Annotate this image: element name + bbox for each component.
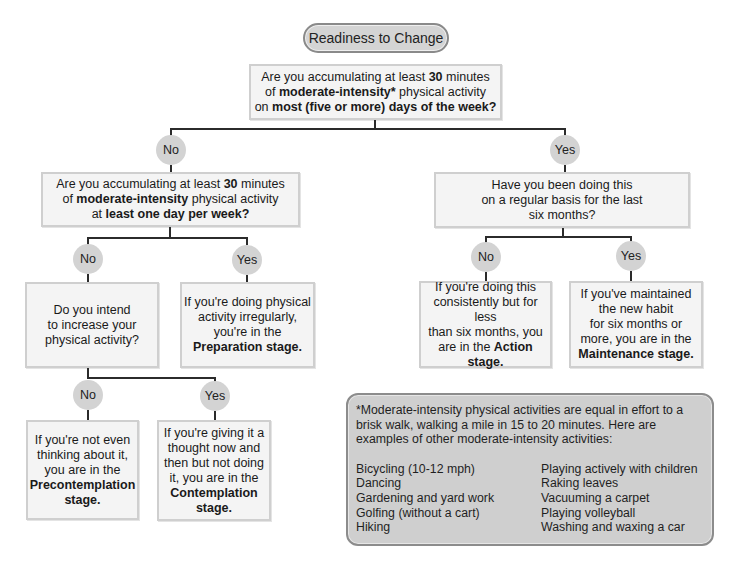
q2-text: of xyxy=(62,192,76,206)
preparation-line: you're in the xyxy=(184,325,311,340)
connector xyxy=(87,377,216,379)
contemplation-line: then but not doing xyxy=(164,456,264,471)
answer-label: No xyxy=(80,388,96,402)
precontemplation-line: you are in the xyxy=(30,463,136,478)
q2-text: Are you accumulating at least xyxy=(56,177,223,191)
answer-yes-circle: Yes xyxy=(232,245,262,275)
preparation-line: activity irregularly, xyxy=(184,310,311,325)
title-text: Readiness to Change xyxy=(309,30,444,46)
action-stage-box: If you're doing this consistently but fo… xyxy=(419,281,552,368)
maintenance-stage-label: Maintenance stage. xyxy=(578,347,693,361)
action-line: than six months, you xyxy=(421,325,550,340)
q3-line: physical activity? xyxy=(45,333,139,348)
answer-yes-circle: Yes xyxy=(550,135,580,165)
q1-text: minutes xyxy=(443,70,490,84)
answer-no-circle: No xyxy=(471,242,501,272)
contemplation-line: thought now and xyxy=(164,441,264,456)
activity-item: Raking leaves xyxy=(541,476,704,491)
q3-line: Do you intend xyxy=(45,303,139,318)
precontemplation-stage-label: stage. xyxy=(64,493,100,507)
preparation-line: If you're doing physical xyxy=(184,295,311,310)
action-line: If you're doing this xyxy=(421,280,550,295)
precontemplation-line: thinking about it, xyxy=(30,448,136,463)
activity-item: Gardening and yard work xyxy=(356,491,541,506)
preparation-stage-label: Preparation stage. xyxy=(193,340,302,354)
q2-bold: least one day per week? xyxy=(106,207,250,221)
q2-text: physical activity xyxy=(188,192,278,206)
question-1-box: Are you accumulating at least 30 minutes… xyxy=(249,64,502,120)
action-line: consistently but for less xyxy=(421,295,550,325)
contemplation-stage-box: If you're giving it a thought now and th… xyxy=(157,420,271,521)
contemplation-line: If you're giving it a xyxy=(164,426,264,441)
activities-column-2: Playing actively with children Raking le… xyxy=(541,462,704,536)
q2-text: at xyxy=(92,207,106,221)
connector xyxy=(170,128,566,130)
q2-bold: 30 xyxy=(224,177,238,191)
title-pill: Readiness to Change xyxy=(303,23,449,53)
answer-no-circle: No xyxy=(73,380,103,410)
answer-label: No xyxy=(478,250,494,264)
question-2-right-box: Have you been doing this on a regular ba… xyxy=(434,172,690,228)
contemplation-line: it, you are in the xyxy=(164,471,264,486)
q2-bold: moderate-intensity xyxy=(76,192,188,206)
answer-no-circle: No xyxy=(156,135,186,165)
answer-label: Yes xyxy=(555,143,575,157)
connector xyxy=(630,271,632,281)
connector xyxy=(485,236,632,238)
question-3-box: Do you intend to increase your physical … xyxy=(25,282,159,368)
q1-bold: most (five or more) days of the week? xyxy=(272,100,496,114)
precontemplation-line: If you're not even xyxy=(30,433,136,448)
note-intro: *Moderate-intensity physical activities … xyxy=(356,403,704,447)
q2-text: minutes xyxy=(238,177,285,191)
q1-bold: moderate-intensity* xyxy=(279,85,396,99)
contemplation-stage-label: Contemplation xyxy=(170,486,258,500)
q1-text: physical activity xyxy=(396,85,486,99)
q1-text: on xyxy=(255,100,272,114)
q1-bold: 30 xyxy=(429,70,443,84)
maintenance-line: more, you are in the xyxy=(578,332,693,347)
answer-label: Yes xyxy=(237,253,257,267)
activity-item: Bicycling (10-12 mph) xyxy=(356,462,541,477)
q2r-line: on a regular basis for the last xyxy=(481,193,642,208)
answer-yes-circle: Yes xyxy=(616,241,646,271)
q3-line: to increase your xyxy=(45,318,139,333)
contemplation-stage-label: stage. xyxy=(196,501,232,515)
q1-text: of xyxy=(265,85,279,99)
precontemplation-stage-label: Precontemplation xyxy=(30,478,136,492)
answer-label: Yes xyxy=(205,389,225,403)
q2r-line: six months? xyxy=(481,208,642,223)
connector xyxy=(246,237,248,245)
precontemplation-stage-box: If you're not even thinking about it, yo… xyxy=(26,420,139,520)
activity-item: Hiking xyxy=(356,520,541,535)
connector xyxy=(87,237,248,239)
activity-item: Washing and waxing a car xyxy=(541,520,704,535)
moderate-intensity-note: *Moderate-intensity physical activities … xyxy=(346,393,714,546)
activity-item: Playing volleyball xyxy=(541,506,704,521)
activity-item: Vacuuming a carpet xyxy=(541,491,704,506)
answer-label: No xyxy=(80,252,96,266)
activities-column-1: Bicycling (10-12 mph) Dancing Gardening … xyxy=(356,462,541,536)
maintenance-stage-box: If you've maintained the new habit for s… xyxy=(569,281,703,368)
q1-text: Are you accumulating at least xyxy=(261,70,428,84)
activity-item: Playing actively with children xyxy=(541,462,704,477)
q2r-line: Have you been doing this xyxy=(481,178,642,193)
action-line: are in the xyxy=(438,340,494,354)
maintenance-line: for six months or xyxy=(578,317,693,332)
connector xyxy=(214,411,216,420)
answer-label: No xyxy=(163,143,179,157)
answer-label: Yes xyxy=(621,249,641,263)
activity-item: Dancing xyxy=(356,476,541,491)
maintenance-line: the new habit xyxy=(578,302,693,317)
connector xyxy=(87,410,89,420)
answer-yes-circle: Yes xyxy=(200,381,230,411)
maintenance-line: If you've maintained xyxy=(578,287,693,302)
answer-no-circle: No xyxy=(73,244,103,274)
activity-item: Golfing (without a cart) xyxy=(356,506,541,521)
question-2-left-box: Are you accumulating at least 30 minutes… xyxy=(41,172,300,227)
preparation-stage-box: If you're doing physical activity irregu… xyxy=(180,282,315,368)
